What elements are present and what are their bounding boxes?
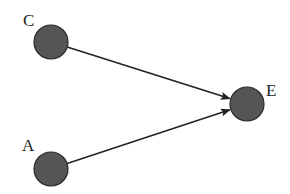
node-c-label: C bbox=[23, 11, 34, 30]
node-c-circle bbox=[34, 25, 68, 59]
node-e: E bbox=[230, 81, 276, 121]
graph-diagram: C E A bbox=[0, 0, 290, 194]
node-e-label: E bbox=[266, 81, 276, 100]
node-a-label: A bbox=[22, 136, 35, 155]
node-a-circle bbox=[34, 152, 68, 186]
nodes-layer: C E A bbox=[22, 11, 276, 186]
edge-a-to-e bbox=[67, 110, 230, 164]
node-a: A bbox=[22, 136, 68, 186]
node-c: C bbox=[23, 11, 68, 59]
edge-c-to-e bbox=[67, 47, 230, 99]
node-e-circle bbox=[230, 87, 264, 121]
edges-layer bbox=[67, 47, 230, 164]
